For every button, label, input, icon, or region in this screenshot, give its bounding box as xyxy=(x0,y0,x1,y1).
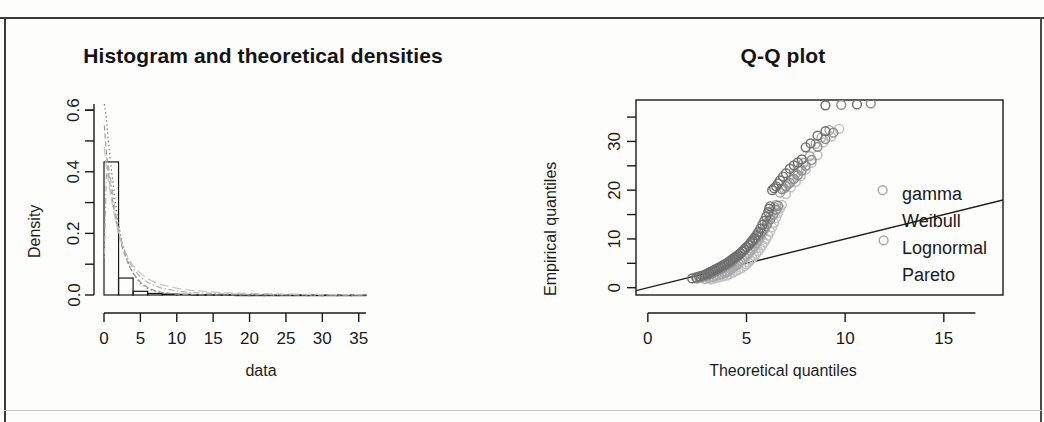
histogram-bar xyxy=(133,291,148,295)
qq-x-tick-label: 5 xyxy=(742,329,751,348)
histogram-y-tick-label: 0.2 xyxy=(65,222,84,246)
qq-data-group: gammaWeibullLognormalPareto xyxy=(636,99,1003,291)
qq-point xyxy=(837,100,846,109)
qq-point xyxy=(879,236,888,245)
histogram-x-tick-label: 5 xyxy=(136,329,145,348)
qq-graphics: 0102030051015gammaWeibullLognormalPareto xyxy=(605,99,1004,348)
qq-panel: Q-Q plot Empirical quantiles Theoretical… xyxy=(522,0,1044,422)
qq-y-tick-label: 0 xyxy=(605,283,624,292)
qq-legend-label-lognormal: Lognormal xyxy=(902,238,987,258)
histogram-x-tick-label: 20 xyxy=(240,329,259,348)
qq-x-tick-label: 10 xyxy=(836,329,855,348)
qq-plot-area: 0102030051015gammaWeibullLognormalPareto xyxy=(522,0,1044,422)
qq-point xyxy=(821,101,830,110)
density-curve-gamma xyxy=(104,104,366,295)
histogram-graphics: 0.00.20.40.605101520253035 xyxy=(65,98,369,348)
histogram-panel: Histogram and theoretical densities Dens… xyxy=(0,0,522,422)
histogram-x-tick-label: 30 xyxy=(313,329,332,348)
histogram-x-tick-label: 0 xyxy=(99,329,108,348)
histogram-x-tick-label: 35 xyxy=(349,329,368,348)
histogram-bar xyxy=(119,278,134,295)
histogram-x-tick-label: 15 xyxy=(204,329,223,348)
histogram-y-tick-label: 0.0 xyxy=(65,283,84,307)
histogram-plot-area: 0.00.20.40.605101520253035 xyxy=(0,0,522,422)
qq-y-tick-label: 30 xyxy=(605,132,624,151)
qq-point xyxy=(878,186,887,195)
histogram-x-tick-label: 25 xyxy=(276,329,295,348)
qq-legend-label-gamma: gamma xyxy=(902,184,963,204)
density-curve-pareto xyxy=(104,147,366,295)
histogram-bar xyxy=(148,293,163,295)
figure-page: Histogram and theoretical densities Dens… xyxy=(0,0,1044,422)
qq-x-tick-label: 0 xyxy=(643,329,652,348)
density-curve-weibull xyxy=(104,126,366,295)
qq-legend: gammaWeibullLognormalPareto xyxy=(902,184,987,285)
qq-legend-label-pareto: Pareto xyxy=(902,265,955,285)
histogram-y-tick-label: 0.6 xyxy=(65,98,84,122)
qq-legend-label-weibull: Weibull xyxy=(902,211,961,231)
histogram-x-tick-label: 10 xyxy=(167,329,186,348)
qq-x-tick-label: 15 xyxy=(934,329,953,348)
qq-y-tick-label: 10 xyxy=(605,229,624,248)
qq-point xyxy=(853,100,862,109)
qq-series-weibull xyxy=(693,99,875,283)
histogram-y-tick-label: 0.4 xyxy=(65,160,84,184)
qq-y-tick-label: 20 xyxy=(605,181,624,200)
